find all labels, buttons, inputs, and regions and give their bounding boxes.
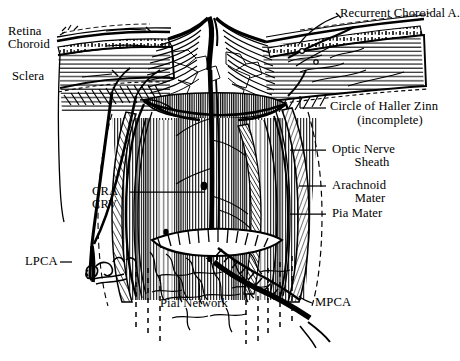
- vessel-node: [314, 60, 318, 64]
- label-arachnoid-mater-line2: Mater: [332, 192, 408, 206]
- optic-cup-edge: [214, 18, 217, 46]
- label-circle-of-haller-zinn: Circle of Haller Zinn: [330, 100, 438, 114]
- label-crv: CRV: [92, 198, 117, 212]
- label-lpca: LPCA: [25, 255, 58, 269]
- label-recurrent-choroidal-artery: Recurrent Choroidal A.: [340, 7, 460, 21]
- disc-rim-left: [168, 18, 208, 39]
- label-optic-nerve-sheath-line2: Sheath: [332, 156, 412, 170]
- label-pial-network: Pial Network: [160, 297, 228, 311]
- label-mpca: MPCA: [315, 296, 351, 310]
- mpca-distal-2: [300, 326, 316, 348]
- label-pia-mater: Pia Mater: [332, 207, 382, 221]
- optic-nerve-anatomy-drawing: [0, 0, 460, 361]
- label-circle-of-haller-zinn-note: (incomplete): [330, 114, 450, 128]
- label-sclera: Sclera: [12, 70, 44, 84]
- right-globe-wall: [258, 13, 430, 112]
- vessel-node: [300, 49, 305, 54]
- optic-cup: [209, 17, 212, 70]
- label-choroid: Choroid: [8, 38, 50, 52]
- illustration-canvas: Retina Choroid Sclera Recurrent Choroida…: [0, 0, 460, 361]
- mpca-distal: [308, 322, 330, 342]
